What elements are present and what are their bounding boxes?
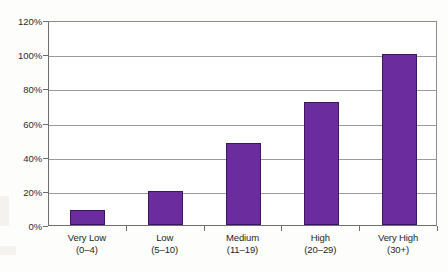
y-axis-tick-label: 100% (0, 50, 42, 61)
bar-chart: 0%20%40%60%80%100%120% Very Low(0–4)Low(… (0, 0, 448, 272)
y-axis-tick-mark (43, 226, 48, 227)
x-axis-category-label: Very Low(0–4) (48, 232, 126, 256)
x-axis-category-range: (20–29) (281, 244, 359, 256)
y-axis-tick-label: 20% (0, 186, 42, 197)
y-axis-tick-mark (43, 124, 48, 125)
x-axis-tick-mark (281, 226, 282, 231)
x-axis-category-name: Very Low (68, 232, 106, 243)
x-axis-category-name: Low (156, 232, 173, 243)
bar (70, 210, 105, 225)
x-axis-category-range: (30+) (359, 244, 437, 256)
x-axis-category-name: High (311, 232, 330, 243)
y-axis-tick-label: 0% (0, 221, 42, 232)
plot-area (48, 21, 437, 226)
x-axis-tick-mark (126, 226, 127, 231)
y-axis-tick-mark (43, 158, 48, 159)
gridline (49, 125, 436, 126)
gridline (49, 56, 436, 57)
y-axis-tick-mark (43, 21, 48, 22)
x-axis-category-range: (0–4) (48, 244, 126, 256)
gridline (49, 90, 436, 91)
bar (382, 54, 417, 225)
x-axis-category-name: Medium (226, 232, 259, 243)
y-axis-tick-mark (43, 55, 48, 56)
x-axis-category-name: Very High (378, 232, 418, 243)
x-axis-tick-mark (437, 226, 438, 231)
bar (304, 102, 339, 225)
x-axis-category-label: Very High(30+) (359, 232, 437, 256)
y-axis-tick-label: 120% (0, 16, 42, 27)
x-axis-tick-mark (204, 226, 205, 231)
x-axis-category-label: High(20–29) (281, 232, 359, 256)
bar (148, 191, 183, 225)
y-axis-tick-mark (43, 192, 48, 193)
x-axis-category-label: Medium(11–19) (204, 232, 282, 256)
y-axis-tick-mark (43, 89, 48, 90)
y-axis-tick-label: 80% (0, 84, 42, 95)
x-axis-category-range: (11–19) (204, 244, 282, 256)
scan-artifact (0, 246, 16, 255)
x-axis-category-label: Low(5–10) (126, 232, 204, 256)
y-axis-tick-label: 60% (0, 118, 42, 129)
y-axis-tick-label: 40% (0, 152, 42, 163)
x-axis-tick-mark (359, 226, 360, 231)
bar (226, 143, 261, 225)
x-axis-category-range: (5–10) (126, 244, 204, 256)
